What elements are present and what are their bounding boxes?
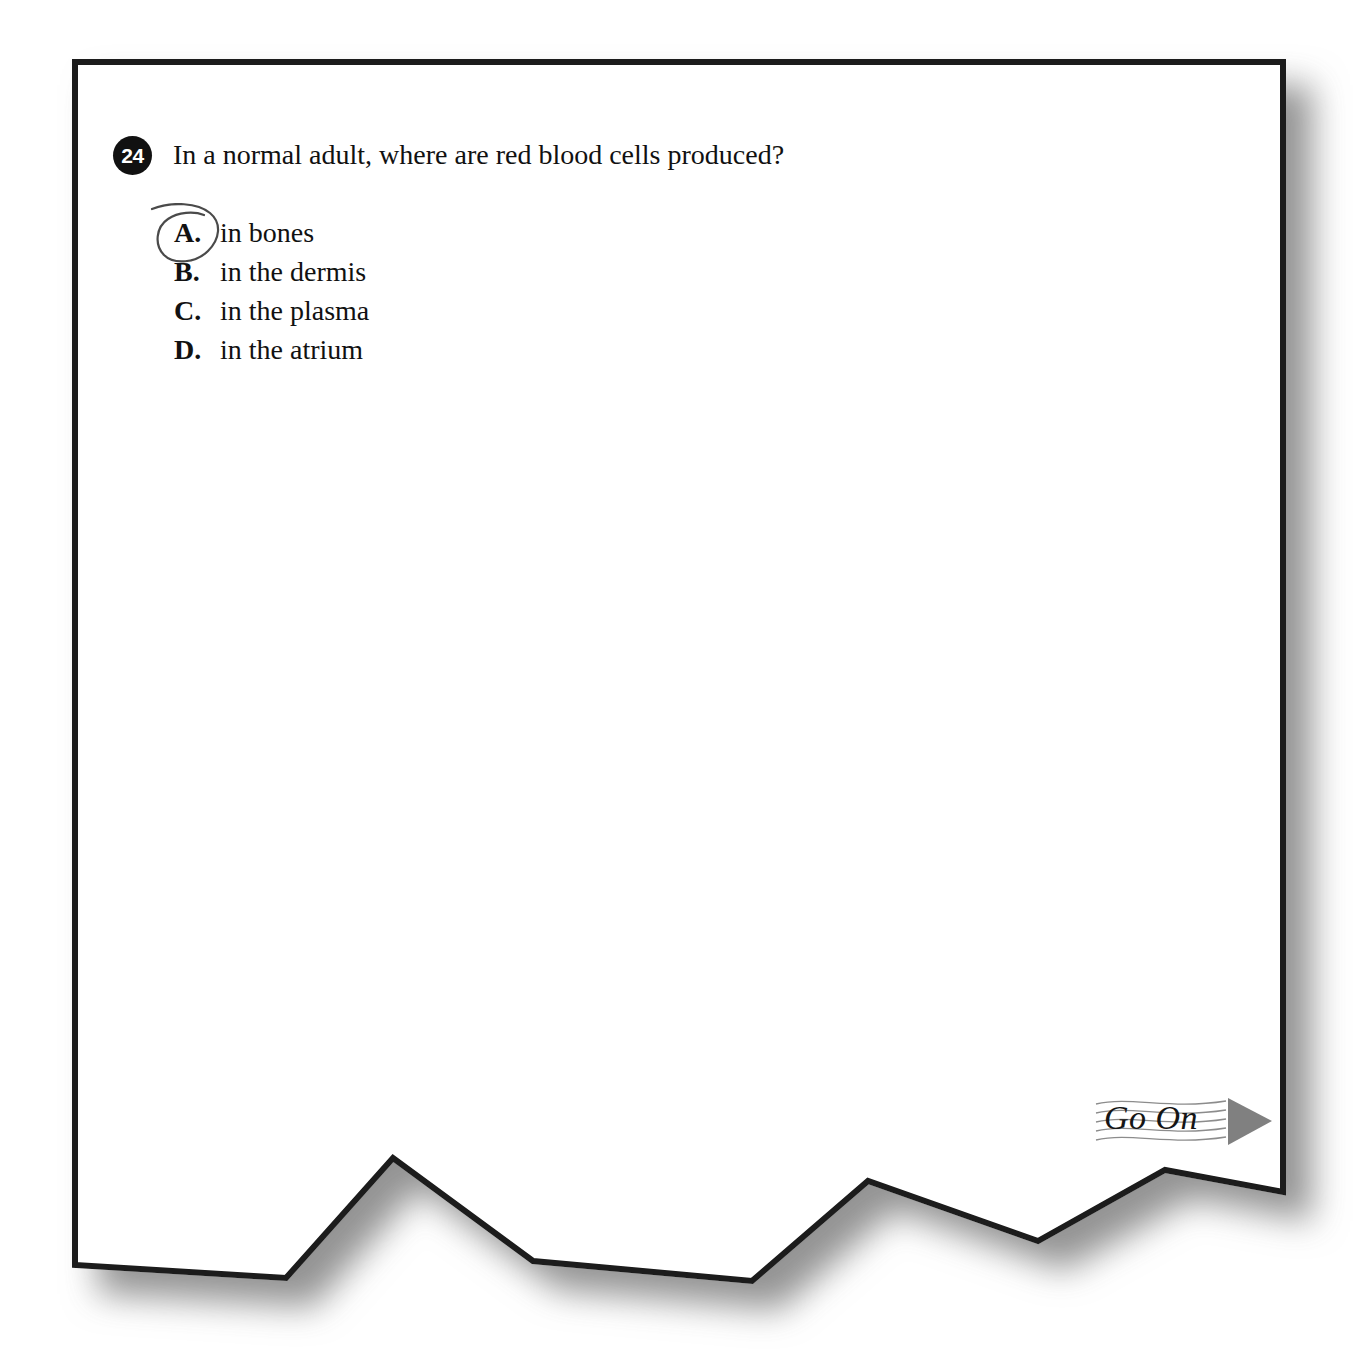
- question-number-badge: 24: [113, 136, 152, 175]
- option-letter-d: D.: [174, 334, 220, 366]
- handwritten-circle-annotation: [150, 203, 270, 277]
- option-text-c: in the plasma: [220, 295, 369, 327]
- option-row-d[interactable]: D. in the atrium: [174, 334, 369, 373]
- go-on-marker: Go On: [1090, 1092, 1280, 1154]
- go-on-label: Go On: [1104, 1096, 1198, 1140]
- option-row-c[interactable]: C. in the plasma: [174, 295, 369, 334]
- go-on-arrow-icon: [1228, 1098, 1272, 1145]
- option-text-d: in the atrium: [220, 334, 363, 366]
- question-stem: In a normal adult, where are red blood c…: [173, 136, 1193, 174]
- option-letter-c: C.: [174, 295, 220, 327]
